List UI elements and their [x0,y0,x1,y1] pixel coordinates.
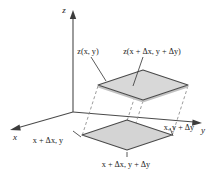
y-axis-line [73,112,194,122]
label-x-dx-y: x + Δx, y [33,136,64,145]
base-projection-face [82,120,172,150]
dashed-vertical-left [82,86,98,136]
y-axis-label: y [200,125,205,135]
base-projection-group [82,120,172,150]
figure-root: z x y z(x, y) z(x + Δx, y + Δy) x + Δx, … [0,0,215,175]
leader-line-bottom-left [73,131,81,137]
x-axis-line [17,112,73,128]
label-x-y-dy: x, y + Δy [164,123,195,132]
axes-group [10,10,202,131]
surface-patch-group [98,70,188,102]
surface-patch-face [98,70,188,100]
z-axis-arrowhead [70,10,76,19]
x-axis-arrowhead [10,124,21,130]
z-axis-label: z [61,5,66,15]
surface-element-diagram: z x y z(x, y) z(x + Δx, y + Δy) x + Δx, … [0,0,215,175]
label-x-dx-y-dy: x + Δx, y + Δy [102,160,151,169]
x-axis-label: x [12,132,17,142]
label-z-x-y: z(x, y) [77,47,99,56]
leader-line-top-left [91,57,106,81]
label-z-x-dx-y-dy: z(x + Δx, y + Δy) [123,47,181,56]
